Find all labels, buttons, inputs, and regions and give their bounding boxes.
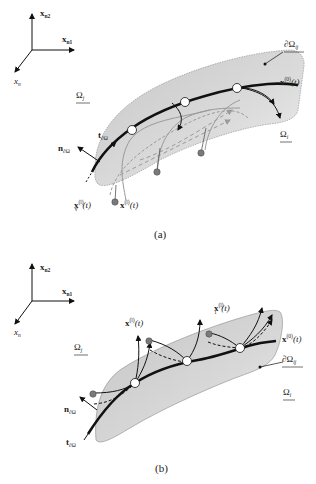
axis-label-x-n2: xn2 — [40, 8, 51, 19]
node-1-b — [131, 379, 140, 388]
gray-dot-1-a — [154, 169, 160, 175]
figure-canvas: xn2 xn1 xn — [0, 0, 316, 484]
label-x0-b: x(0)(t) — [282, 333, 301, 344]
label-omega-j-b: Ωj — [74, 342, 83, 353]
axis-label-x-n2: xn2 — [40, 262, 51, 273]
axis-label-x-n: xn — [13, 327, 21, 338]
gray-dot-3-b — [206, 331, 212, 337]
label-boundary-a: ∂Ωij — [284, 39, 299, 50]
axes-triad-a: xn2 xn1 xn — [13, 8, 74, 87]
gray-dot-2-a — [112, 199, 118, 205]
label-omega-j-a: Ωj — [76, 90, 85, 101]
axes-triad-b: xn2 xn1 xn — [13, 262, 74, 338]
label-xli-b: x(l)i(t) — [214, 302, 230, 315]
gray-dot-2-b — [146, 338, 152, 344]
label-omega-i-b: Ωi — [283, 387, 292, 398]
panel-b: xn2 xn1 xn — [13, 262, 303, 475]
label-xl-b: x(l)(t) — [125, 317, 143, 328]
node-1-a — [128, 126, 137, 135]
interface-surface-b — [96, 310, 283, 442]
label-normal-b: n∂Ω — [64, 404, 76, 415]
axis-x-n-arrow-icon — [15, 301, 32, 324]
node-3-a — [233, 84, 242, 93]
tangent-line-b — [84, 434, 88, 440]
axis-label-x-n: xn — [13, 76, 21, 87]
label-tangent-b: t∂Ω — [66, 437, 76, 448]
label-xlv-a: x(l)v(t) — [74, 199, 91, 212]
axis-label-x-n1: xn1 — [62, 286, 73, 297]
boundary-extension-a — [86, 172, 92, 182]
label-xl-a: x(l)(t) — [120, 199, 138, 210]
caption-b: (b) — [155, 462, 168, 475]
gray-dot-3-a — [198, 150, 204, 156]
axis-label-x-n1: xn1 — [62, 34, 73, 45]
label-normal-a: n∂Ω — [58, 143, 70, 154]
node-2-a — [181, 98, 190, 107]
label-boundary-b: ∂Ωij — [282, 354, 297, 365]
axis-x-n-arrow-icon — [15, 50, 32, 72]
caption-a: (a) — [154, 228, 167, 241]
node-2-b — [183, 357, 192, 366]
node-3-b — [236, 344, 245, 353]
gray-dot-1-b — [90, 391, 96, 397]
panel-a: xn2 xn1 xn — [13, 8, 304, 241]
label-omega-i-a: Ωi — [280, 129, 289, 140]
